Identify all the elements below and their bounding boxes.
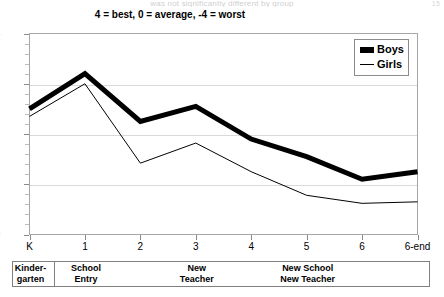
series-line-girls	[30, 84, 418, 204]
legend-label-boys: Boys	[377, 43, 404, 56]
phase-annotation-band: Kinder- gartenSchool EntryNew TeacherNew…	[12, 261, 430, 287]
x-axis-tick-label: 2	[115, 241, 165, 253]
legend-swatch-boys-icon	[359, 47, 374, 53]
legend-item-girls: Girls	[359, 57, 404, 72]
series-line-boys	[30, 74, 418, 180]
x-axis-tick	[30, 235, 31, 240]
chart-legend: Boys Girls	[354, 39, 409, 76]
x-axis-tick-label: 3	[171, 241, 221, 253]
phase-annotation-cell: New School New Teacher	[263, 262, 353, 286]
x-axis-tick-label: 6-end	[393, 241, 443, 253]
cutoff-line: was not significantly different by group	[150, 0, 293, 7]
x-axis-tick	[85, 235, 86, 240]
x-axis-tick-label: 1	[60, 241, 110, 253]
x-axis-tick	[251, 235, 252, 240]
phase-annotation-cell: New Teacher	[152, 262, 242, 286]
legend-label-girls: Girls	[377, 58, 402, 71]
x-axis-tick	[140, 235, 141, 240]
chart-page: was not significantly different by group…	[0, 0, 444, 297]
legend-swatch-girls-icon	[359, 64, 374, 65]
x-axis-tick	[362, 235, 363, 240]
x-axis-tick-label: 4	[226, 241, 276, 253]
x-axis-tick	[196, 235, 197, 240]
page-edge-mark: 15	[432, 0, 440, 7]
x-axis-tick-label: 6	[337, 241, 387, 253]
phase-annotation-divider	[54, 262, 55, 286]
legend-item-boys: Boys	[359, 42, 404, 57]
page-top-cutoff-text: was not significantly different by group…	[0, 0, 444, 7]
chart-title: 4 = best, 0 = average, -4 = worst	[0, 9, 340, 20]
x-axis-tick-label: K	[5, 241, 55, 253]
x-axis-tick-label: 5	[282, 241, 332, 253]
x-axis-tick	[307, 235, 308, 240]
x-axis-tick	[418, 235, 419, 240]
